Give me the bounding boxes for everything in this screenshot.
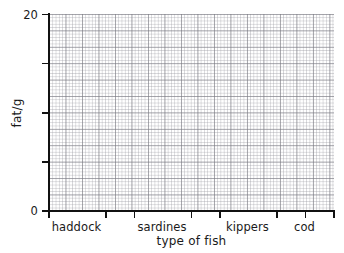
x-axis-tick-0 [48,211,50,218]
y-axis-title-text: fat/g [10,98,24,127]
x-axis-category-kippers: kippers [219,221,276,234]
y-axis-tick-label-0: 0 [31,205,38,217]
x-axis-tick-3 [191,211,193,218]
y-axis-tick-15 [42,63,49,65]
chart-figure: 20 0 fat/g haddock sardines kippers cod … [0,0,344,253]
y-axis-tick-5 [42,161,49,163]
y-axis-title-wrapper: fat/g [4,14,30,211]
x-axis-tick-2 [134,211,136,218]
x-axis-tick-7 [333,211,335,218]
y-axis-tick-10 [42,112,49,114]
x-axis-category-haddock: haddock [48,221,105,234]
y-axis-title: fat/g [4,14,30,211]
x-axis-category-cod: cod [276,221,333,234]
x-axis-tick-1 [105,211,107,218]
y-axis-tick-20 [42,14,49,16]
x-axis-tick-6 [305,211,307,218]
plot-area-grid[interactable] [49,14,334,211]
x-axis-tick-4 [219,211,221,218]
x-axis-tick-5 [276,211,278,218]
x-axis-title: type of fish [49,234,334,248]
x-axis-category-sardines: sardines [134,221,191,234]
